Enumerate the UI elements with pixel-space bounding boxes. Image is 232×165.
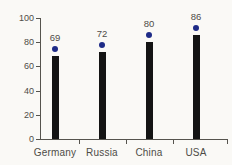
dot-russia	[99, 42, 105, 48]
dot-germany	[52, 46, 58, 52]
bar-chart-screenshot: 02040608010069Germany72Russia80China86US…	[0, 0, 232, 165]
x-axis-tick	[126, 140, 127, 144]
y-axis-tick	[36, 91, 40, 92]
y-axis-tick	[36, 42, 40, 43]
y-axis-line	[40, 18, 41, 140]
x-axis-tick	[79, 140, 80, 144]
y-axis-tick-label: 100	[9, 13, 34, 23]
dot-usa	[193, 25, 199, 31]
x-axis-tick	[173, 140, 174, 144]
y-axis-tick	[36, 18, 40, 19]
x-axis-line	[40, 139, 228, 140]
value-label-china: 80	[137, 19, 161, 29]
x-axis-tick	[227, 140, 228, 144]
bar-china	[146, 42, 153, 139]
bar-russia	[99, 52, 106, 139]
value-label-russia: 72	[90, 29, 114, 39]
y-axis-tick-label: 40	[9, 86, 34, 96]
y-axis-tick	[36, 115, 40, 116]
y-axis-tick	[36, 66, 40, 67]
x-axis-label-usa: USA	[166, 147, 226, 158]
bar-usa	[193, 35, 200, 139]
bar-chart-plot-area: 02040608010069Germany72Russia80China86US…	[0, 0, 232, 165]
y-axis-tick-label: 60	[9, 61, 34, 71]
y-axis-tick-label: 0	[9, 134, 34, 144]
y-axis-tick-label: 80	[9, 37, 34, 47]
bar-germany	[52, 56, 59, 139]
value-label-usa: 86	[184, 12, 208, 22]
y-axis-tick	[36, 139, 40, 140]
dot-china	[146, 32, 152, 38]
value-label-germany: 69	[43, 33, 67, 43]
y-axis-tick-label: 20	[9, 110, 34, 120]
